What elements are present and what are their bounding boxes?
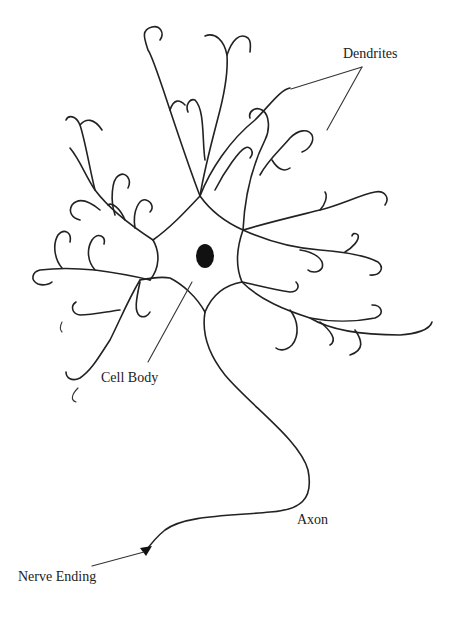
axon xyxy=(145,312,309,552)
right-dendrites xyxy=(242,192,432,355)
label-dendrites: Dendrites xyxy=(343,47,397,61)
label-nerve-ending: Nerve Ending xyxy=(18,570,96,584)
label-axon: Axon xyxy=(297,513,328,527)
neuron-illustration xyxy=(0,0,451,619)
cell-body-outline xyxy=(140,196,243,312)
upper-left-dendrites xyxy=(66,117,153,240)
label-cell-body: Cell Body xyxy=(101,371,158,385)
upper-dendrites xyxy=(144,27,312,230)
cell-body-leader xyxy=(148,282,192,362)
nerve-ending xyxy=(92,546,152,566)
nucleus xyxy=(196,244,214,268)
neuron-diagram: Dendrites Cell Body Axon Nerve Ending xyxy=(0,0,451,619)
leader-lines xyxy=(148,67,362,362)
